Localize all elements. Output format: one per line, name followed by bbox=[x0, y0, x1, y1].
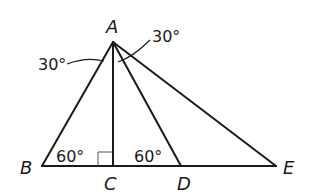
point-label-D: D bbox=[177, 173, 191, 194]
angle-label-DAE: 30° bbox=[152, 27, 180, 46]
angle-label-ADC: 60° bbox=[134, 147, 162, 166]
point-label-B: B bbox=[20, 157, 32, 178]
point-label-C: C bbox=[104, 173, 117, 194]
angle-leader-BAC bbox=[67, 59, 104, 64]
angle-label-BAC: 30° bbox=[38, 55, 66, 74]
point-label-A: A bbox=[105, 16, 118, 37]
geometry-diagram: A B C D E 30° 30° 60° 60° bbox=[0, 0, 309, 194]
right-angle-marker bbox=[98, 152, 112, 166]
angle-label-ABC: 60° bbox=[56, 147, 84, 166]
point-label-E: E bbox=[283, 157, 295, 178]
